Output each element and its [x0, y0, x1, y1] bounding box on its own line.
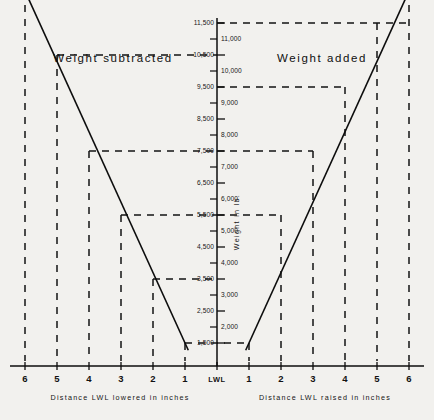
region-label-weight-subtracted: Weight subtracted [53, 52, 173, 64]
y-tick-label-7000: 7,000 [221, 163, 238, 170]
y-tick-label-4500: 4,500 [197, 243, 214, 250]
y-tick-label-10000: 10,000 [221, 67, 242, 74]
y-tick-label-11000: 11,000 [221, 35, 242, 42]
x-axis-tick-labels: 654321LWL123456 [22, 373, 411, 384]
x-tick-label--3: 3 [118, 373, 123, 384]
y-tick-label-9500: 9,500 [197, 83, 214, 90]
x-tick-label--4: 4 [86, 373, 92, 384]
x-axis-caption-left: Distance LWL lowered in inches [51, 393, 190, 402]
x-tick-label--5: 5 [54, 373, 60, 384]
y-tick-label-11500: 11,500 [194, 19, 215, 26]
y-axis-caption: Weight in lb. [232, 194, 241, 250]
chart-canvas: 11,50010,5009,5008,5007,5006,5005,5004,5… [0, 0, 434, 420]
y-tick-label-9000: 9,000 [221, 99, 238, 106]
y-tick-label-4000: 4,000 [221, 259, 238, 266]
weight-lwl-nomogram-chart: 11,50010,5009,5008,5007,5006,5005,5004,5… [0, 0, 434, 420]
y-tick-label-5500: 5,500 [197, 211, 214, 218]
y-tick-label-7500: 7,500 [197, 147, 214, 154]
x-tick-label-3: 3 [310, 373, 315, 384]
y-tick-label-8500: 8,500 [197, 115, 214, 122]
y-tick-label-10500: 10,500 [193, 51, 214, 58]
x-tick-label--2: 2 [150, 373, 155, 384]
x-tick-label-1: 1 [246, 373, 252, 384]
x-tick-label--1: 1 [182, 373, 188, 384]
x-tick-label--6: 6 [22, 373, 27, 384]
region-label-weight-added: Weight added [277, 52, 367, 64]
y-tick-label-2000: 2,000 [221, 323, 238, 330]
y-tick-label-1500: 1,500 [197, 339, 214, 346]
x-tick-label-5: 5 [374, 373, 380, 384]
y-tick-label-2500: 2,500 [197, 307, 214, 314]
x-tick-label-2: 2 [278, 373, 283, 384]
x-axis-caption-right: Distance LWL raised in inches [259, 393, 391, 402]
x-tick-label-4: 4 [342, 373, 348, 384]
y-tick-label-8000: 8,000 [221, 131, 238, 138]
x-tick-label-lwl: LWL [208, 375, 225, 384]
x-tick-label-6: 6 [406, 373, 411, 384]
y-tick-label-6500: 6,500 [197, 179, 214, 186]
y-tick-label-3500: 3,500 [197, 275, 214, 282]
y-tick-label-3000: 3,000 [221, 291, 238, 298]
